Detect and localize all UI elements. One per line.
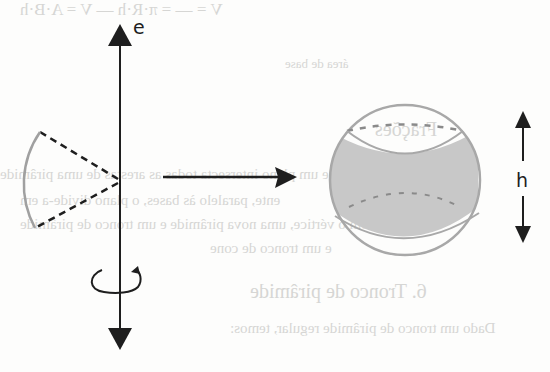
upper-circle-back	[347, 125, 463, 132]
height-bottom-arrowhead-icon	[515, 226, 531, 243]
sector-upper-radius	[40, 132, 118, 179]
axis-label: e	[133, 16, 145, 38]
transformation-arrow	[163, 167, 297, 188]
rotation-arrow-icon	[92, 266, 141, 293]
sector-lower-radius	[35, 183, 118, 228]
transformation-arrowhead-icon	[275, 167, 297, 188]
circular-sector	[24, 132, 118, 228]
sphere-with-zone	[330, 105, 480, 255]
height-label: h	[516, 169, 528, 191]
rotation-axis	[108, 24, 132, 350]
revolution-diagram: e h	[0, 0, 550, 372]
axis-bottom-arrowhead-icon	[108, 328, 132, 350]
spherical-zone	[331, 130, 478, 237]
sector-arc	[24, 132, 40, 228]
axis-top-arrowhead-icon	[108, 24, 132, 46]
